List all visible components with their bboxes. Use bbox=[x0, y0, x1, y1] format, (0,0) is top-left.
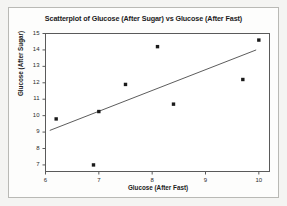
figure-container: Scatterplot of Glucose (After Sugar) vs … bbox=[0, 0, 287, 206]
data-point-marker bbox=[172, 102, 175, 105]
data-point-marker bbox=[97, 110, 100, 113]
y-tick-label: 13 bbox=[26, 62, 40, 68]
x-tick-label: 9 bbox=[199, 177, 213, 183]
y-tick-label: 11 bbox=[26, 95, 40, 101]
y-tick-label: 15 bbox=[26, 30, 40, 36]
y-tick-label: 10 bbox=[26, 112, 40, 118]
x-tick-label: 6 bbox=[39, 177, 53, 183]
data-point-marker bbox=[92, 163, 95, 166]
data-point-marker bbox=[156, 45, 159, 48]
data-point-marker bbox=[257, 38, 260, 41]
scatter-plot bbox=[0, 0, 287, 206]
x-tick-label: 8 bbox=[145, 177, 159, 183]
y-tick-label: 7 bbox=[26, 161, 40, 167]
plot-frame bbox=[46, 34, 270, 172]
y-tick-label: 12 bbox=[26, 79, 40, 85]
data-point-marker bbox=[54, 117, 57, 120]
data-point-marker bbox=[241, 78, 244, 81]
data-point-marker bbox=[124, 83, 127, 86]
x-tick-label: 10 bbox=[252, 177, 266, 183]
y-tick-label: 14 bbox=[26, 46, 40, 52]
y-tick-label: 8 bbox=[26, 145, 40, 151]
x-tick-label: 7 bbox=[92, 177, 106, 183]
y-tick-label: 9 bbox=[26, 128, 40, 134]
